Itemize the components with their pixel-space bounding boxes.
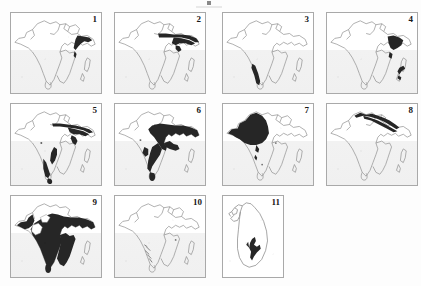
scan-artifact-smudge [196, 6, 222, 8]
panel-number-3: 3 [305, 14, 310, 24]
shaded-range-11 [246, 237, 261, 260]
map-panel-8[interactable]: 8 [326, 103, 418, 186]
panel-number-5: 5 [93, 105, 98, 115]
shaded-range-4 [388, 35, 406, 80]
shaded-range-7 [228, 113, 269, 161]
map-outline-1 [11, 13, 101, 93]
scan-artifact [196, 0, 222, 9]
map-panel-5[interactable]: 5 [10, 103, 102, 186]
map-panel-6[interactable]: 6 [114, 103, 206, 186]
panel-number-7: 7 [305, 105, 310, 115]
map-outline-10 [115, 196, 205, 277]
distribution-maps-figure: 1 2 [0, 0, 421, 286]
map-outline-8 [327, 104, 417, 185]
map-outline-7 [223, 104, 313, 185]
shaded-range-1 [74, 35, 93, 57]
map-panel-11[interactable]: 11 [222, 195, 284, 278]
map-panel-7[interactable]: 7 [222, 103, 314, 186]
panel-number-4: 4 [409, 14, 414, 24]
map-panel-9[interactable]: 9 [10, 195, 102, 278]
shaded-range-8 [354, 113, 399, 133]
map-outline-4 [327, 13, 417, 93]
panel-number-6: 6 [197, 105, 202, 115]
map-panel-10[interactable]: 10 [114, 195, 206, 278]
map-outline-9 [11, 196, 101, 277]
map-outline-11 [223, 196, 283, 277]
map-panel-4[interactable]: 4 [326, 12, 418, 94]
panel-number-9: 9 [93, 197, 98, 207]
map-panel-3[interactable]: 3 [222, 12, 314, 94]
panel-number-10: 10 [193, 197, 202, 207]
scan-artifact-mark [207, 1, 211, 5]
shaded-range-3 [251, 64, 260, 85]
map-panel-2[interactable]: 2 [114, 12, 206, 94]
map-outline-3 [223, 13, 313, 93]
panel-number-8: 8 [409, 105, 414, 115]
shaded-range-6 [142, 124, 199, 182]
map-outline-2 [115, 13, 205, 93]
panel-number-2: 2 [197, 14, 202, 24]
panel-number-11: 11 [271, 197, 280, 207]
map-panel-1[interactable]: 1 [10, 12, 102, 94]
map-outline-5 [11, 104, 101, 185]
panel-number-1: 1 [93, 14, 98, 24]
map-outline-6 [115, 104, 205, 185]
